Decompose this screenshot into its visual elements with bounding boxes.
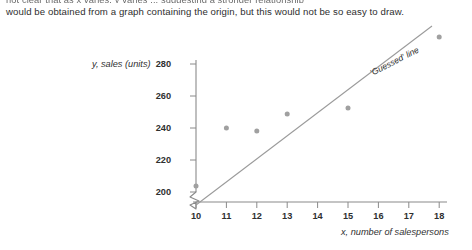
x-tick-label-15: 15 <box>343 211 353 221</box>
x-axis-title: x, number of salespersons <box>340 227 449 237</box>
data-point <box>194 184 199 189</box>
x-tick-label-17: 17 <box>404 211 414 221</box>
x-tick-label-14: 14 <box>312 211 323 221</box>
y-tick-label-240: 240 <box>156 123 171 133</box>
y-tick-label-280: 280 <box>156 59 171 69</box>
y-tick-label-260: 260 <box>156 91 171 101</box>
x-tick-label-16: 16 <box>373 211 383 221</box>
x-tick-label-18: 18 <box>434 211 444 221</box>
guessed-trend-line <box>196 26 432 205</box>
scatter-chart: y, sales (units) 280 260 240 220 200 <box>0 0 472 250</box>
x-tick-label-12: 12 <box>252 211 262 221</box>
y-tick-label-200: 200 <box>156 187 171 197</box>
x-tick-label-13: 13 <box>282 211 292 221</box>
x-tick-label-10: 10 <box>191 211 201 221</box>
data-point <box>254 129 259 134</box>
guessed-line-label: 'Guessed' line <box>368 45 420 78</box>
data-point <box>346 106 351 111</box>
x-tick-label-11: 11 <box>222 211 232 221</box>
data-point <box>224 126 229 131</box>
y-tick-label-220: 220 <box>156 155 171 165</box>
textbook-page-figure: not clear that as x varies, y varies ...… <box>0 0 472 250</box>
data-point <box>437 35 442 40</box>
data-point <box>285 112 290 117</box>
axis-break-icon <box>190 192 199 209</box>
y-axis-title: y, sales (units) <box>91 59 151 69</box>
